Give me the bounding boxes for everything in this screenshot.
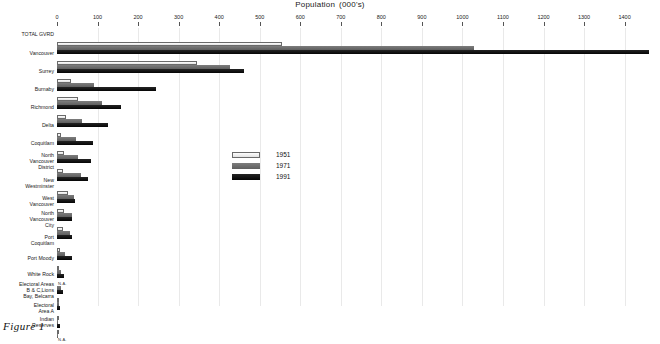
bar-1991 bbox=[57, 256, 72, 260]
category-label-line: Port Moody bbox=[0, 255, 54, 261]
category-label-line: Surrey bbox=[0, 68, 54, 74]
bar-1991 bbox=[57, 235, 72, 239]
bar-1991 bbox=[57, 159, 91, 163]
category-label-line: White Rock bbox=[0, 271, 54, 277]
bar-row bbox=[57, 316, 653, 330]
bar-row bbox=[57, 115, 653, 129]
category-label: White Rock bbox=[0, 271, 54, 277]
x-axis-ticks: 0100200300400500600700800900100011001200… bbox=[57, 14, 653, 28]
category-label-line: Bay, Belcarra bbox=[0, 293, 54, 299]
bar-1991 bbox=[57, 87, 156, 91]
x-tick-label: 100 bbox=[93, 14, 102, 20]
category-label: Richmond bbox=[0, 104, 54, 110]
category-label: Port Moody bbox=[0, 255, 54, 261]
category-label-line: Coquitlam bbox=[0, 140, 54, 146]
category-label: Electoral AreasB & C,LionsBay, Belcarra bbox=[0, 281, 54, 299]
x-tick-label: 1100 bbox=[497, 14, 509, 20]
category-label: TOTAL GVRD bbox=[0, 31, 54, 37]
bar-row bbox=[57, 133, 653, 147]
bar-1991 bbox=[57, 306, 60, 310]
bar-rows: N.A.N.A. bbox=[57, 28, 653, 306]
legend-label-1971: 1971 bbox=[276, 162, 290, 169]
x-tick-mark bbox=[503, 22, 504, 26]
bar-row bbox=[57, 191, 653, 205]
figure-caption: Figure 1 bbox=[3, 320, 45, 332]
chart-title-units: (000's) bbox=[339, 0, 365, 9]
category-label-line: Burnaby bbox=[0, 86, 54, 92]
x-tick-label: 800 bbox=[377, 14, 386, 20]
category-label-line: Vancouver bbox=[0, 201, 54, 207]
category-label: NorthVancouverCity bbox=[0, 210, 54, 228]
x-tick-mark bbox=[179, 22, 180, 26]
category-label-line: Area A bbox=[0, 308, 54, 314]
bar-1991 bbox=[57, 141, 93, 145]
x-tick-label: 500 bbox=[255, 14, 264, 20]
bar-row bbox=[57, 298, 653, 312]
bar-1991 bbox=[57, 274, 64, 278]
bar-1991 bbox=[57, 217, 72, 221]
category-label: NorthVancouverDistrict bbox=[0, 152, 54, 170]
category-label: Delta bbox=[0, 122, 54, 128]
bar-1991 bbox=[57, 290, 63, 294]
bar-row bbox=[57, 227, 653, 241]
plot-area: 0100200300400500600700800900100011001200… bbox=[57, 14, 653, 306]
category-label: PortCoquitlam bbox=[0, 234, 54, 246]
category-label-line: City bbox=[0, 222, 54, 228]
bar-1991 bbox=[57, 69, 244, 73]
legend-swatch-1951 bbox=[232, 152, 260, 158]
bar-1991 bbox=[57, 50, 649, 54]
bar-row bbox=[57, 169, 653, 183]
category-label: WestVancouver bbox=[0, 195, 54, 207]
bar-row bbox=[57, 209, 653, 223]
category-label: NewWestminster bbox=[0, 177, 54, 189]
category-labels: TOTAL GVRDVancouverSurreyBurnabyRichmond… bbox=[0, 14, 54, 306]
x-tick-label: 200 bbox=[133, 14, 142, 20]
bar-1991 bbox=[57, 123, 108, 127]
bar-1991 bbox=[57, 324, 60, 328]
x-tick-label: 0 bbox=[55, 14, 58, 20]
bar-1991 bbox=[57, 177, 88, 181]
category-label-line: TOTAL GVRD bbox=[0, 31, 54, 37]
bar-row: N.A. bbox=[57, 282, 653, 296]
category-label: Vancouver bbox=[0, 50, 54, 56]
bar-1991 bbox=[57, 199, 75, 203]
bar-row bbox=[57, 79, 653, 93]
category-label: Burnaby bbox=[0, 86, 54, 92]
legend-label-1951: 1951 bbox=[276, 151, 290, 158]
x-tick-mark bbox=[381, 22, 382, 26]
x-tick-label: 400 bbox=[215, 14, 224, 20]
chart-title-text: Population bbox=[295, 0, 335, 9]
x-tick-mark bbox=[57, 22, 58, 26]
bar-row bbox=[57, 97, 653, 111]
bar-row bbox=[57, 266, 653, 280]
x-tick-label: 600 bbox=[296, 14, 305, 20]
legend-label-1991: 1991 bbox=[276, 173, 290, 180]
category-label: Surrey bbox=[0, 68, 54, 74]
bar-row bbox=[57, 42, 653, 56]
x-tick-label: 900 bbox=[417, 14, 426, 20]
x-tick-mark bbox=[341, 22, 342, 26]
x-tick-label: 300 bbox=[174, 14, 183, 20]
bar-1991 bbox=[57, 105, 121, 109]
legend-swatch-1991 bbox=[232, 174, 260, 180]
bar-row bbox=[57, 151, 653, 165]
x-tick-label: 1000 bbox=[456, 14, 468, 20]
bar-row bbox=[57, 248, 653, 262]
x-tick-mark bbox=[98, 22, 99, 26]
x-tick-mark bbox=[584, 22, 585, 26]
x-tick-mark bbox=[462, 22, 463, 26]
x-tick-mark bbox=[625, 22, 626, 26]
category-label-line: Delta bbox=[0, 122, 54, 128]
category-label-line: Richmond bbox=[0, 104, 54, 110]
legend-swatch-1971 bbox=[232, 163, 260, 169]
x-tick-label: 1300 bbox=[578, 14, 590, 20]
x-tick-mark bbox=[422, 22, 423, 26]
missing-value-label: N.A. bbox=[58, 338, 67, 342]
x-tick-mark bbox=[219, 22, 220, 26]
x-tick-label: 700 bbox=[336, 14, 345, 20]
category-label-line: Coquitlam bbox=[0, 240, 54, 246]
x-tick-mark bbox=[544, 22, 545, 26]
x-tick-mark bbox=[260, 22, 261, 26]
category-label: ElectoralArea A bbox=[0, 302, 54, 314]
